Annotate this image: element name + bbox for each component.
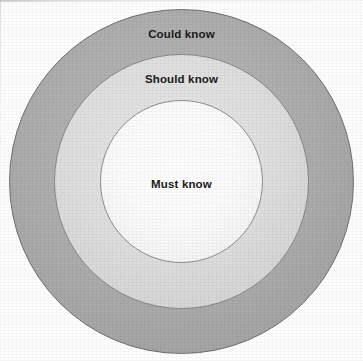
ring-label-must-know: Must know: [0, 178, 363, 190]
diagram-canvas: Could know Should know Must know: [0, 0, 363, 361]
ring-label-could-know: Could know: [0, 28, 363, 40]
scan-edge-line-top: [0, 0, 363, 2]
ring-label-should-know: Should know: [0, 73, 363, 85]
